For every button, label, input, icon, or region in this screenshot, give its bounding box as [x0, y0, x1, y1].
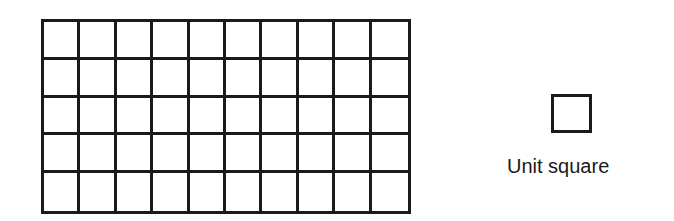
grid-cell [299, 135, 335, 173]
grid-cell [190, 135, 226, 173]
grid-cell [153, 98, 189, 136]
grid-cell [153, 60, 189, 98]
grid-cell [190, 22, 226, 60]
grid-cell [80, 22, 116, 60]
grid-cell [226, 98, 262, 136]
grid-cell [335, 173, 371, 211]
grid-cell [44, 98, 80, 136]
grid-cell [226, 60, 262, 98]
grid-cell [117, 135, 153, 173]
grid-cell [80, 60, 116, 98]
grid-cell [226, 173, 262, 211]
grid-cell [44, 60, 80, 98]
grid-cell [299, 98, 335, 136]
grid-cell [153, 173, 189, 211]
grid-cell [372, 135, 408, 173]
grid-cell [190, 173, 226, 211]
grid-cell [372, 173, 408, 211]
grid-cell [335, 22, 371, 60]
grid-cell [226, 22, 262, 60]
grid-cell [117, 98, 153, 136]
grid-cell [372, 98, 408, 136]
grid-cell [44, 135, 80, 173]
grid-cell [80, 98, 116, 136]
grid-cell [117, 60, 153, 98]
grid-cell [262, 173, 298, 211]
grid-cell [335, 60, 371, 98]
grid-cell [117, 173, 153, 211]
rectangle-grid [41, 19, 411, 214]
unit-square-icon [551, 94, 592, 133]
grid-cell [44, 22, 80, 60]
grid-cell [117, 22, 153, 60]
grid-cell [262, 135, 298, 173]
grid-cell [372, 60, 408, 98]
grid-cell [80, 173, 116, 211]
unit-square-label: Unit square [507, 154, 609, 178]
grid-cell [190, 60, 226, 98]
grid-cell [226, 135, 262, 173]
grid-cell [262, 60, 298, 98]
grid-cell [299, 173, 335, 211]
grid-cell [335, 135, 371, 173]
grid-cell [153, 22, 189, 60]
grid-cell [299, 60, 335, 98]
grid-cell [372, 22, 408, 60]
grid-cell [262, 22, 298, 60]
grid-cell [262, 98, 298, 136]
grid-cell [335, 98, 371, 136]
grid-cell [153, 135, 189, 173]
grid-cell [299, 22, 335, 60]
grid-cell [80, 135, 116, 173]
grid-cell [190, 98, 226, 136]
grid-cell [44, 173, 80, 211]
